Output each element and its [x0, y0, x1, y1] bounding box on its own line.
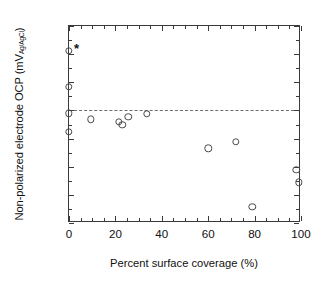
data-point [295, 178, 302, 185]
x-axis-tick [115, 216, 116, 221]
x-axis-minor-tick [220, 218, 221, 221]
x-axis-tick [255, 26, 256, 31]
y-axis-minor-tick [296, 153, 299, 154]
data-point [143, 110, 150, 117]
y-axis-tick [294, 223, 299, 224]
x-axis-tick [162, 26, 163, 31]
x-axis-minor-tick [185, 26, 186, 29]
x-axis-tick [69, 216, 70, 221]
x-axis-tick-label: 100 [281, 227, 319, 240]
y-axis-title: Non-polarized electrode OCP (mVAg/AgCl) [13, 19, 25, 229]
x-axis-tick-label: 0 [49, 227, 89, 240]
y-axis-tick [69, 167, 74, 168]
x-axis-tick [301, 26, 302, 31]
x-axis-minor-tick [139, 218, 140, 221]
data-point [119, 121, 126, 128]
asterisk-annotation: * [74, 41, 79, 54]
y-axis-tick [69, 139, 74, 140]
y-axis-minor-tick [69, 96, 72, 97]
x-axis-minor-tick [104, 218, 105, 221]
y-axis-minor-tick [296, 209, 299, 210]
y-axis-tick [69, 195, 74, 196]
x-axis-tick-label: 20 [95, 227, 135, 240]
x-axis-tick [115, 26, 116, 31]
x-axis-minor-tick [81, 218, 82, 221]
x-axis-title: Percent surface coverage (%) [68, 257, 300, 269]
x-axis-minor-tick [289, 218, 290, 221]
y-axis-minor-tick [296, 68, 299, 69]
data-point [124, 113, 131, 120]
x-axis-minor-tick [289, 26, 290, 29]
x-axis-minor-tick [266, 218, 267, 221]
y-axis-minor-tick [69, 125, 72, 126]
data-point [293, 166, 300, 173]
x-axis-minor-tick [127, 26, 128, 29]
data-point [87, 116, 94, 123]
data-point [249, 203, 256, 210]
y-axis-minor-tick [69, 68, 72, 69]
x-axis-minor-tick [127, 218, 128, 221]
figure-container: Non-polarized electrode OCP (mVAg/AgCl) … [0, 0, 319, 282]
y-axis-title-main: Non-polarized electrode OCP (mV [13, 54, 25, 220]
x-axis-minor-tick [81, 26, 82, 29]
x-axis-tick [301, 216, 302, 221]
x-axis-minor-tick [150, 218, 151, 221]
y-axis-tick [294, 139, 299, 140]
y-axis-tick [294, 54, 299, 55]
y-axis-minor-tick [69, 209, 72, 210]
data-point [204, 145, 211, 152]
x-axis-minor-tick [197, 218, 198, 221]
y-axis-tick [294, 195, 299, 196]
x-axis-tick [255, 216, 256, 221]
x-axis-minor-tick [104, 26, 105, 29]
y-axis-minor-tick [296, 125, 299, 126]
y-axis-title-close: ) [13, 28, 25, 32]
x-axis-minor-tick [197, 26, 198, 29]
y-axis-minor-tick [296, 96, 299, 97]
x-axis-tick [208, 216, 209, 221]
x-axis-tick [69, 26, 70, 31]
x-axis-minor-tick [231, 218, 232, 221]
y-axis-tick [294, 82, 299, 83]
x-axis-minor-tick [243, 218, 244, 221]
data-point [65, 83, 72, 90]
plot-area: 5004003002001000-100-200020406080100* [68, 25, 300, 222]
y-axis-minor-tick [69, 153, 72, 154]
reference-line-200mv [69, 110, 299, 111]
x-axis-minor-tick [278, 26, 279, 29]
x-axis-minor-tick [173, 26, 174, 29]
x-axis-tick [162, 216, 163, 221]
x-axis-minor-tick [266, 26, 267, 29]
y-axis-tick [294, 110, 299, 111]
x-axis-tick-label: 80 [235, 227, 275, 240]
x-axis-minor-tick [150, 26, 151, 29]
y-axis-tick [69, 223, 74, 224]
x-axis-minor-tick [92, 218, 93, 221]
x-axis-tick [208, 26, 209, 31]
y-axis-tick [294, 26, 299, 27]
x-axis-minor-tick [243, 26, 244, 29]
x-axis-minor-tick [231, 26, 232, 29]
x-axis-minor-tick [185, 218, 186, 221]
x-axis-tick-label: 60 [188, 227, 228, 240]
x-axis-minor-tick [173, 218, 174, 221]
data-point [232, 138, 239, 145]
y-axis-minor-tick [69, 181, 72, 182]
data-point [65, 128, 72, 135]
x-axis-minor-tick [220, 26, 221, 29]
x-axis-minor-tick [139, 26, 140, 29]
data-point [65, 110, 72, 117]
x-axis-minor-tick [92, 26, 93, 29]
y-axis-minor-tick [69, 40, 72, 41]
y-axis-minor-tick [296, 40, 299, 41]
x-axis-minor-tick [278, 218, 279, 221]
y-axis-title-subscript: Ag/AgCl [18, 31, 25, 54]
x-axis-tick-label: 40 [142, 227, 182, 240]
